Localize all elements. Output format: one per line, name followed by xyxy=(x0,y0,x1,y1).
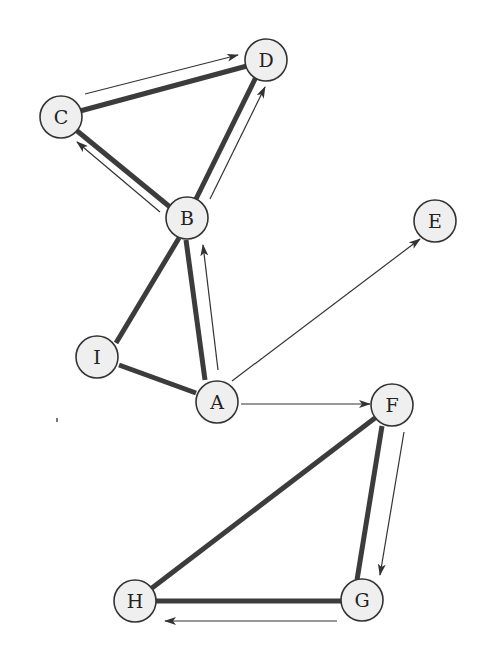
node-h: H xyxy=(114,580,156,622)
edge-b-i xyxy=(116,238,179,343)
node-f-label: F xyxy=(385,394,398,416)
node-e: E xyxy=(414,200,456,242)
node-g-label: G xyxy=(354,589,369,611)
edge-b-a xyxy=(186,240,205,380)
node-d: D xyxy=(245,39,287,81)
thick-edges xyxy=(76,66,382,601)
node-f: F xyxy=(371,384,413,426)
arrow-a-to-b xyxy=(203,245,218,370)
node-a: A xyxy=(196,381,238,423)
node-i: I xyxy=(76,336,118,378)
scan-speck xyxy=(56,418,58,422)
node-g: G xyxy=(341,579,383,621)
node-d-label: D xyxy=(258,49,273,71)
arrows xyxy=(77,55,420,621)
node-a-label: A xyxy=(209,391,224,413)
edge-i-a xyxy=(119,365,196,393)
arrow-f-to-g xyxy=(380,432,404,575)
arrow-b-to-c xyxy=(77,142,160,212)
node-b: B xyxy=(166,197,208,239)
edge-c-b xyxy=(76,130,170,207)
arrow-a-to-e xyxy=(232,239,420,381)
edge-f-g xyxy=(357,426,382,580)
graph-diagram: A B C D E F G H xyxy=(0,0,485,664)
node-c: C xyxy=(40,96,82,138)
node-c-label: C xyxy=(54,106,69,128)
edge-b-d xyxy=(196,77,256,199)
node-b-label: B xyxy=(180,207,194,229)
nodes: A B C D E F G H xyxy=(40,39,456,622)
edge-f-h xyxy=(152,418,375,588)
node-e-label: E xyxy=(428,210,442,232)
node-h-label: H xyxy=(127,590,144,612)
arrow-b-to-d xyxy=(210,87,265,199)
node-i-label: I xyxy=(93,346,101,368)
